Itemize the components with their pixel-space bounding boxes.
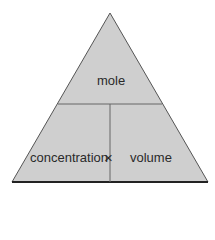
multiply-icon: × — [104, 150, 113, 165]
label-concentration: concentration — [30, 151, 108, 164]
label-mole: mole — [97, 74, 125, 87]
label-volume: volume — [130, 151, 172, 164]
